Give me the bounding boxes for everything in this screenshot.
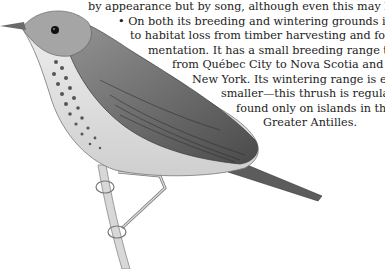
text-line-1: by appearance but by song, although even… xyxy=(88,0,385,14)
text-line-3: to habitat loss from timber harvesting a… xyxy=(130,29,385,43)
text-line-6: New York. Its wintering range is even xyxy=(192,73,385,87)
text-line-4: mentation. It has a small breeding range… xyxy=(148,44,385,58)
text-line-9: Greater Antilles. xyxy=(248,116,372,130)
text-line-7: smaller—this thrush is regularly xyxy=(221,87,385,101)
text-line-5: from Québec City to Nova Scotia and sout… xyxy=(172,58,385,72)
text-line-2: • On both its breeding and wintering gro… xyxy=(118,15,385,29)
text-line-8: found only on islands in the xyxy=(236,102,385,116)
